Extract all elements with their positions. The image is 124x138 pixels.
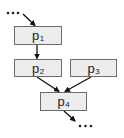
output-ellipsis-icon (79, 125, 93, 128)
node-p2: p2 (14, 59, 62, 77)
edge-input-p1 (23, 14, 35, 26)
edge-p2-p4 (37, 77, 59, 92)
node-p2-label: p (32, 61, 39, 76)
node-p2-subscript: 2 (40, 67, 44, 76)
node-p1-label: p (32, 28, 39, 43)
node-p4-subscript: 4 (65, 100, 69, 109)
node-p3: p3 (70, 59, 117, 77)
node-p3-label: p (87, 61, 94, 76)
edge-p4-output (64, 111, 75, 121)
node-p4-label: p (57, 94, 64, 109)
node-p1-subscript: 1 (40, 34, 44, 43)
input-ellipsis-icon (7, 12, 20, 15)
node-p1: p1 (14, 26, 62, 45)
node-p4: p4 (40, 92, 87, 111)
edge-p3-p4 (65, 77, 91, 92)
node-p3-subscript: 3 (95, 67, 99, 76)
